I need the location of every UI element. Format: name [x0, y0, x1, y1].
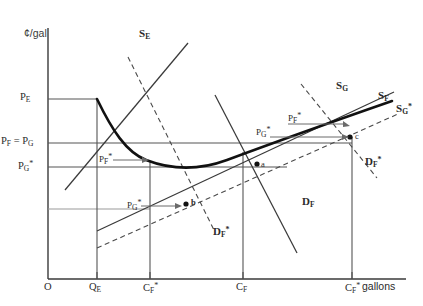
curve-df-main: D: [302, 195, 310, 207]
origin-label: O: [44, 282, 52, 293]
x-tick-cf-star-low-sup: *: [154, 281, 158, 290]
curve-label-df-star-right: DF*: [365, 156, 382, 169]
x-tick-label-cf: CF: [236, 282, 247, 293]
inner-label-pg-star-right: PG*: [256, 126, 270, 139]
x-tick-qe-main: Q: [89, 281, 97, 292]
x-tick-cf-main: C: [236, 281, 243, 292]
point-label-a: a: [261, 160, 265, 169]
y-tick-pe-sub: E: [26, 95, 31, 104]
inner-pg-star-right-sup: *: [266, 125, 270, 134]
inner-pf-star-right-sup: *: [297, 111, 301, 120]
y-tick-label-pg-star: PG*: [18, 160, 33, 173]
curve-df-star-mid-main: D: [213, 225, 221, 237]
y-tick-label-pe: PE: [20, 92, 30, 103]
point-label-b: b: [191, 198, 196, 207]
x-tick-qe-sub: E: [97, 285, 102, 294]
curve-df-sub: F: [310, 200, 315, 209]
inner-pf-star-left-sup: *: [108, 152, 112, 161]
point-label-c: c: [355, 132, 359, 141]
curve-sg: [97, 92, 394, 231]
x-tick-cf-star-low-main: C: [143, 282, 150, 293]
diagram-canvas: [0, 0, 423, 306]
curve-sf-heavy: [97, 99, 392, 168]
leader-pg-star-left-arrowhead: [175, 203, 182, 209]
point-b-dot: [183, 201, 188, 206]
y-tick-pg-star-sup: *: [29, 159, 33, 168]
curve-label-se: SE: [139, 28, 150, 40]
economics-diagram-figure: ¢/gal gallons O PE PF = PG PG* QE CF* CF…: [0, 0, 423, 306]
x-tick-cf-star-high-main: C: [345, 282, 352, 293]
inner-label-pf-star-right: PF*: [288, 112, 301, 125]
x-tick-label-cf-star-low: CF*: [143, 282, 158, 295]
curve-sg-star-sup: *: [408, 102, 412, 111]
curve-label-sg-star: SG*: [396, 103, 412, 116]
curve-se-sub: E: [145, 32, 150, 41]
curve-label-sg: SG: [336, 80, 348, 92]
x-tick-cf-star-high-sup: *: [356, 281, 360, 290]
x-tick-cf-sub: F: [243, 285, 247, 294]
curve-sg-sub: G: [342, 84, 348, 93]
inner-label-pg-star-left: PG*: [127, 199, 141, 212]
y-tick-pg-sub: G: [28, 139, 33, 148]
curve-label-sf: SF: [378, 90, 389, 102]
curve-label-df-star-mid: DF*: [213, 226, 230, 239]
inner-pg-star-left-sup: *: [137, 198, 141, 207]
point-a-dot: [254, 161, 259, 166]
curve-se: [65, 43, 188, 190]
x-tick-label-cf-star-high: CF*: [345, 282, 360, 295]
y-axis-title: ¢/gal: [24, 28, 47, 39]
y-tick-equals: =: [11, 135, 22, 146]
curve-df-star-right-main: D: [365, 155, 373, 167]
inner-label-pf-star-left: PF*: [99, 153, 112, 166]
x-axis-title: gallons: [362, 281, 395, 292]
y-tick-label-pf-pg: PF = PG: [1, 136, 33, 147]
leader-pf-star-right-arrowhead: [343, 121, 350, 127]
curve-sg-star: [97, 114, 398, 248]
x-tick-label-qe: QE: [89, 282, 101, 293]
curve-df-star-right-sup: *: [378, 155, 382, 164]
curve-sf-sub: F: [384, 94, 389, 103]
curve-label-df: DF: [302, 196, 315, 208]
curve-df-star-mid-sup: *: [226, 225, 230, 234]
